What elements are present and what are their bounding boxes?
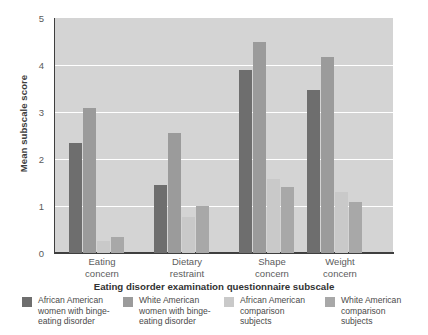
x-tick-label-1: Dietary restraint xyxy=(142,256,232,279)
legend-label-3: White American comparison subjects xyxy=(341,295,427,327)
legend-swatch-3 xyxy=(325,297,335,307)
bar-group-dietary-restraint xyxy=(154,18,220,253)
bar-s3-g2 xyxy=(281,187,294,253)
legend-label-1-line-0: White American xyxy=(139,295,225,306)
bar-s1-g2 xyxy=(253,42,266,254)
bar-group-weight-concern xyxy=(307,18,373,253)
x-axis-title: Eating disorder examination questionnair… xyxy=(0,281,428,292)
x-tick-label-0-line-0: Eating xyxy=(57,256,147,268)
chart-figure: Mean subscale score 0 1 2 3 4 5 xyxy=(0,0,428,335)
legend-label-0-line-2: eating disorder xyxy=(38,316,124,327)
chart-legend: African American women with binge- eatin… xyxy=(22,296,428,335)
legend-label-0-line-0: African American xyxy=(38,295,124,306)
x-tick-label-3-line-1: concern xyxy=(295,268,385,280)
y-tick-1: 1 xyxy=(39,202,44,212)
x-tick-label-1-line-0: Dietary xyxy=(142,256,232,268)
legend-swatch-1 xyxy=(123,297,133,307)
legend-label-1-line-1: women with binge- xyxy=(139,306,225,317)
bar-s3-g3 xyxy=(349,202,362,253)
legend-label-2-line-2: subjects xyxy=(240,316,326,327)
legend-label-2-line-1: comparison xyxy=(240,306,326,317)
legend-swatch-0 xyxy=(22,297,32,307)
legend-label-3-line-1: comparison xyxy=(341,306,427,317)
legend-label-1-line-2: eating disorder xyxy=(139,316,225,327)
y-tick-4: 4 xyxy=(39,61,44,71)
x-tick-label-3: Weight concern xyxy=(295,256,385,279)
bar-s1-g3 xyxy=(321,57,334,253)
x-tick-label-0: Eating concern xyxy=(57,256,147,279)
bar-group-shape-concern xyxy=(239,18,305,253)
y-tick-3: 3 xyxy=(39,108,44,118)
bar-s2-g0 xyxy=(97,241,110,253)
bar-group-eating-concern xyxy=(69,18,135,253)
x-tick-label-3-line-0: Weight xyxy=(295,256,385,268)
bar-s3-g0 xyxy=(111,237,124,253)
bar-s1-g1 xyxy=(168,133,181,253)
legend-label-0: African American women with binge- eatin… xyxy=(38,295,124,327)
legend-label-3-line-2: subjects xyxy=(341,316,427,327)
legend-label-2: African American comparison subjects xyxy=(240,295,326,327)
bar-s1-g0 xyxy=(83,108,96,253)
bar-s0-g0 xyxy=(69,143,82,253)
y-tick-5: 5 xyxy=(39,14,44,24)
bar-s2-g3 xyxy=(335,192,348,253)
bar-groups xyxy=(55,18,393,253)
legend-label-2-line-0: African American xyxy=(240,295,326,306)
bar-s2-g1 xyxy=(182,217,195,253)
x-tick-label-0-line-1: concern xyxy=(57,268,147,280)
legend-swatch-2 xyxy=(224,297,234,307)
legend-label-1: White American women with binge- eating … xyxy=(139,295,225,327)
x-tick-label-1-line-1: restraint xyxy=(142,268,232,280)
bar-s3-g1 xyxy=(196,206,209,253)
bar-s2-g2 xyxy=(267,179,280,253)
legend-label-3-line-0: White American xyxy=(341,295,427,306)
bar-s0-g3 xyxy=(307,90,320,253)
legend-label-0-line-1: women with binge- xyxy=(38,306,124,317)
bar-s0-g1 xyxy=(154,185,167,253)
y-tick-2: 2 xyxy=(39,155,44,165)
y-tick-0: 0 xyxy=(39,249,44,259)
bar-s0-g2 xyxy=(239,70,252,253)
